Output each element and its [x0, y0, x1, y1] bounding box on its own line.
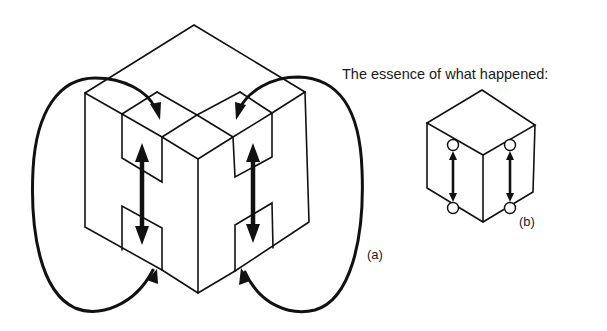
- panel-a-left-double-arrow: [135, 143, 149, 245]
- panel-b-cube: [427, 90, 535, 222]
- figure-canvas: (a) The essence of what happened: (b): [0, 0, 607, 331]
- node-circle: [448, 203, 459, 214]
- node-circle: [505, 203, 516, 214]
- figure-heading: The essence of what happened:: [342, 66, 548, 82]
- panel-a-cube: [85, 25, 309, 293]
- node-circle: [505, 140, 516, 151]
- panel-a-right-double-arrow: [246, 143, 260, 243]
- panel-b-label: (b): [519, 214, 535, 229]
- panel-b-right-double-arrow: [506, 151, 514, 202]
- panel-a-label: (a): [367, 247, 383, 262]
- panel-b-nodes: [448, 140, 516, 214]
- node-circle: [448, 140, 459, 151]
- panel-b-left-double-arrow: [449, 151, 457, 202]
